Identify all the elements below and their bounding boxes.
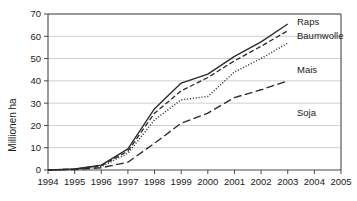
x-tick-label: 2000 <box>197 176 218 187</box>
series-label-mais: Mais <box>297 64 317 75</box>
line-chart: 1994199519961997199819992000200120022003… <box>0 0 357 201</box>
y-tick-label: 40 <box>30 75 41 86</box>
x-tick-label: 1999 <box>171 176 192 187</box>
chart-container: 1994199519961997199819992000200120022003… <box>0 0 357 201</box>
y-tick-label: 30 <box>30 98 41 109</box>
data-series-group <box>48 24 288 170</box>
x-tick-label: 1996 <box>91 176 112 187</box>
x-tick-label: 2005 <box>330 176 351 187</box>
y-tick-label: 0 <box>36 164 41 175</box>
x-tick-label: 2001 <box>224 176 245 187</box>
series-line-baumwolle <box>48 31 288 170</box>
y-tick-label: 70 <box>30 8 41 19</box>
y-axis-title: Millionen ha <box>7 98 18 152</box>
x-tick-label: 2004 <box>304 176 325 187</box>
y-tick-label: 10 <box>30 142 41 153</box>
x-tick-label: 1997 <box>117 176 138 187</box>
series-line-raps <box>48 24 288 170</box>
x-tick-label: 1998 <box>144 176 165 187</box>
series-line-mais <box>48 43 288 170</box>
series-label-soja: Soja <box>297 107 317 118</box>
series-label-baumwolle: Baumwolle <box>297 30 343 41</box>
x-tick-label: 1994 <box>37 176 58 187</box>
y-axis-ticks: 010203040506070 <box>30 8 48 175</box>
y-tick-label: 50 <box>30 53 41 64</box>
series-label-raps: Raps <box>297 16 319 27</box>
x-tick-label: 1995 <box>64 176 85 187</box>
x-axis-ticks: 1994199519961997199819992000200120022003… <box>37 170 351 187</box>
series-labels-group: RapsBaumwolleMaisSoja <box>297 16 343 118</box>
y-tick-label: 60 <box>30 31 41 42</box>
x-tick-label: 2003 <box>277 176 298 187</box>
y-tick-label: 20 <box>30 120 41 131</box>
x-tick-label: 2002 <box>251 176 272 187</box>
